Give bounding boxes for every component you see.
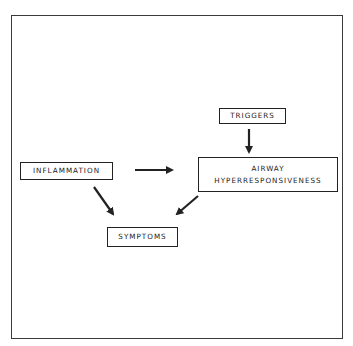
arrows-layer (0, 0, 353, 346)
arrow-inflammation-to-symptoms (94, 187, 113, 214)
arrow-airway-to-symptoms (177, 196, 198, 214)
